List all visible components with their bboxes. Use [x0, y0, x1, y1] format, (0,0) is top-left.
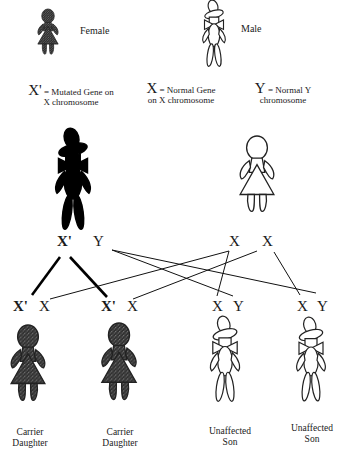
inheritance-lines-mutated	[32, 257, 107, 297]
key-normal-x: X = Normal Gene on X chromosome	[136, 83, 226, 105]
mother-allele-x-1: X	[229, 234, 240, 249]
offspring-4-caption: Unaffected Son	[280, 423, 343, 445]
offspring-4-caption-line1: Unaffected	[280, 423, 343, 434]
key-normal-x-text-2: on X chromosome	[136, 95, 226, 105]
offspring-4-unaffected-son-icon	[297, 316, 326, 402]
offspring-2-carrier-daughter-icon	[102, 323, 136, 400]
key-normal-y: Y = Normal Y chromosome	[248, 83, 318, 105]
key-normal-y-text: = Normal Y	[268, 85, 311, 95]
offspring-2-caption-line1: Carrier	[90, 427, 150, 438]
father-allele-y: Y	[93, 234, 104, 249]
key-normal-x-symbol: X	[146, 80, 157, 96]
offspring-1-allele-x: X	[39, 299, 50, 314]
offspring-2-allele-x-mutated: X'	[101, 299, 116, 314]
father-allele-x-mutated: X'	[57, 234, 72, 249]
mother-allele-x-2: X	[262, 234, 273, 249]
key-mutated-symbol: X'	[28, 82, 42, 98]
mother-unaffected-female-icon	[240, 136, 274, 211]
offspring-2-caption: Carrier Daughter	[90, 427, 150, 449]
father-affected-male-icon	[56, 126, 91, 229]
key-normal-x-text: = Normal Gene	[160, 85, 216, 95]
key-mutated-text: = Mutated Gene on	[44, 87, 114, 97]
key-normal-y-text-2: chromosome	[248, 95, 318, 105]
offspring-2-allele-x: X	[127, 299, 138, 314]
offspring-4-allele-y: Y	[317, 299, 328, 314]
offspring-2-caption-line2: Daughter	[90, 438, 150, 449]
offspring-4-allele-x: X	[297, 299, 308, 314]
legend-male-icon	[203, 0, 226, 67]
key-normal-y-symbol: Y	[255, 80, 266, 96]
offspring-3-allele-y: Y	[233, 299, 244, 314]
legend-female-icon	[38, 9, 58, 54]
offspring-3-allele-x: X	[212, 299, 223, 314]
offspring-1-carrier-daughter-icon	[11, 325, 45, 400]
legend-female-label: Female	[80, 25, 109, 36]
offspring-3-caption-line2: Son	[198, 437, 262, 448]
offspring-3-caption: Unaffected Son	[198, 426, 262, 448]
key-mutated-text-2: X chromosome	[16, 97, 126, 107]
offspring-1-caption-line1: Carrier	[0, 427, 60, 438]
inheritance-diagram	[0, 0, 343, 459]
offspring-3-caption-line1: Unaffected	[198, 426, 262, 437]
offspring-1-caption-line2: Daughter	[0, 438, 60, 449]
offspring-4-caption-line2: Son	[280, 434, 343, 445]
offspring-1-allele-x-mutated: X'	[13, 299, 28, 314]
key-mutated-x: X' = Mutated Gene on X chromosome	[16, 85, 126, 107]
offspring-3-unaffected-son-icon	[210, 315, 239, 402]
offspring-1-caption: Carrier Daughter	[0, 427, 60, 449]
inheritance-lines-normal	[50, 250, 316, 299]
legend-male-label: Male	[241, 23, 262, 34]
